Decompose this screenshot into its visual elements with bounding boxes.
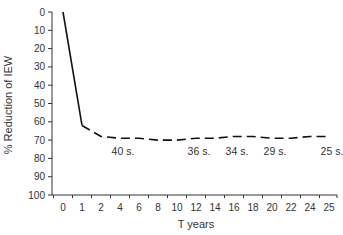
annotation-label: 40 s. <box>112 145 135 157</box>
x-tick-label: 25 <box>323 202 335 213</box>
y-tick-label: 0 <box>39 7 45 18</box>
data-series <box>63 12 329 140</box>
y-axis-title: % Reduction of IEW <box>2 55 14 154</box>
y-tick-label: 30 <box>34 61 46 72</box>
y-tick-label: 20 <box>34 43 46 54</box>
y-tick-label: 40 <box>34 80 46 91</box>
x-tick-label: 18 <box>247 202 259 213</box>
annotation-label: 36 s. <box>188 145 211 157</box>
annotations: 40 s.36 s.34 s.29 s.25 s. <box>112 145 343 157</box>
line-chart: 0102030405060708090100 01246810121416182… <box>0 0 343 235</box>
x-axis-title: T years <box>178 218 215 230</box>
x-tick-label: 22 <box>285 202 297 213</box>
y-tick-label: 10 <box>34 25 46 36</box>
annotation-label: 29 s. <box>264 145 287 157</box>
x-tick-label: 4 <box>117 202 123 213</box>
y-tick-label: 90 <box>34 171 46 182</box>
annotation-label: 34 s. <box>226 145 249 157</box>
x-tick-label: 2 <box>98 202 104 213</box>
x-tick-label: 12 <box>190 202 202 213</box>
x-tick-label: 8 <box>155 202 161 213</box>
y-tick-label: 80 <box>34 153 46 164</box>
x-tick-label: 6 <box>136 202 142 213</box>
y-tick-label: 70 <box>34 135 46 146</box>
x-tick-label: 24 <box>304 202 316 213</box>
series-line-solid <box>63 12 82 125</box>
x-tick-label: 10 <box>171 202 183 213</box>
x-tick-label: 1 <box>79 202 85 213</box>
x-axis: 012468101214161820222425 <box>52 195 337 213</box>
y-axis: 0102030405060708090100 <box>28 7 52 201</box>
y-tick-label: 60 <box>34 116 46 127</box>
x-tick-label: 0 <box>60 202 66 213</box>
annotation-label: 25 s. <box>321 145 343 157</box>
y-tick-label: 100 <box>28 190 45 201</box>
series-line-dashed <box>82 125 329 140</box>
x-tick-label: 16 <box>228 202 240 213</box>
y-tick-label: 50 <box>34 98 46 109</box>
x-tick-label: 20 <box>266 202 278 213</box>
x-tick-label: 14 <box>209 202 221 213</box>
